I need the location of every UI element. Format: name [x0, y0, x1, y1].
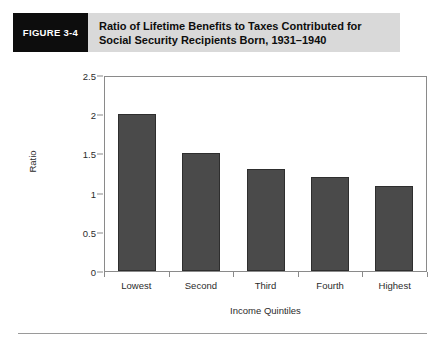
- y-axis-tick-label: 1.5: [83, 149, 96, 160]
- x-axis-title: Income Quintiles: [104, 305, 427, 316]
- y-axis-tick-mark: [97, 232, 103, 233]
- x-axis-tick-label: Lowest: [104, 280, 169, 291]
- x-axis-tick-label: Fourth: [298, 280, 363, 291]
- x-axis-tick-label: Highest: [362, 280, 427, 291]
- figure-number-label: FIGURE 3-4: [23, 27, 78, 38]
- bar-slot: [105, 77, 169, 271]
- y-axis-tick-mark: [97, 76, 103, 77]
- y-axis-tick-label: 0.5: [83, 227, 96, 238]
- bar: [182, 153, 220, 271]
- y-axis-tick-mark: [97, 154, 103, 155]
- bar: [247, 169, 285, 271]
- figure-number-box: FIGURE 3-4: [13, 13, 88, 52]
- figure-title-box: Ratio of Lifetime Benefits to Taxes Cont…: [88, 13, 400, 52]
- bar: [311, 177, 349, 271]
- figure-header: FIGURE 3-4 Ratio of Lifetime Benefits to…: [13, 13, 400, 52]
- bar-slot: [298, 77, 362, 271]
- y-axis-tick-mark: [97, 193, 103, 194]
- x-axis-tick-mark: [104, 272, 105, 277]
- bar-slot: [362, 77, 426, 271]
- x-axis-tick-mark: [233, 272, 234, 277]
- bar-slot: [169, 77, 233, 271]
- figure-title-line-2: Social Security Recipients Born, 1931–19…: [99, 33, 394, 47]
- bars-layer: [105, 77, 426, 271]
- bar-chart: Ratio 00.511.522.5 LowestSecondThirdFour…: [0, 56, 445, 326]
- bar: [375, 186, 413, 271]
- y-axis-tick-label: 2.5: [83, 71, 96, 82]
- figure-title-line-1: Ratio of Lifetime Benefits to Taxes Cont…: [99, 19, 394, 33]
- y-axis-tick-mark: [97, 272, 103, 273]
- y-axis-title: Ratio: [27, 127, 38, 197]
- x-axis-tick-mark: [427, 272, 428, 277]
- x-axis-tick-mark: [298, 272, 299, 277]
- plot-area: [104, 76, 427, 272]
- bar-slot: [233, 77, 297, 271]
- x-axis-tick-marks: [104, 272, 427, 277]
- x-axis-tick-mark: [362, 272, 363, 277]
- x-axis-tick-label: Second: [169, 280, 234, 291]
- y-axis-tick-mark: [97, 115, 103, 116]
- x-axis-tick-labels: LowestSecondThirdFourthHighest: [104, 280, 427, 291]
- y-axis-tick-label: 2: [91, 110, 96, 121]
- page-divider-rule: [18, 333, 427, 334]
- y-axis-tick-labels: 00.511.522.5: [66, 76, 96, 272]
- plot-inner: [105, 77, 426, 271]
- y-axis-tick-label: 1: [91, 188, 96, 199]
- x-axis-tick-mark: [169, 272, 170, 277]
- bar: [118, 114, 156, 271]
- y-axis-tick-label: 0: [91, 267, 96, 278]
- x-axis-tick-label: Third: [233, 280, 298, 291]
